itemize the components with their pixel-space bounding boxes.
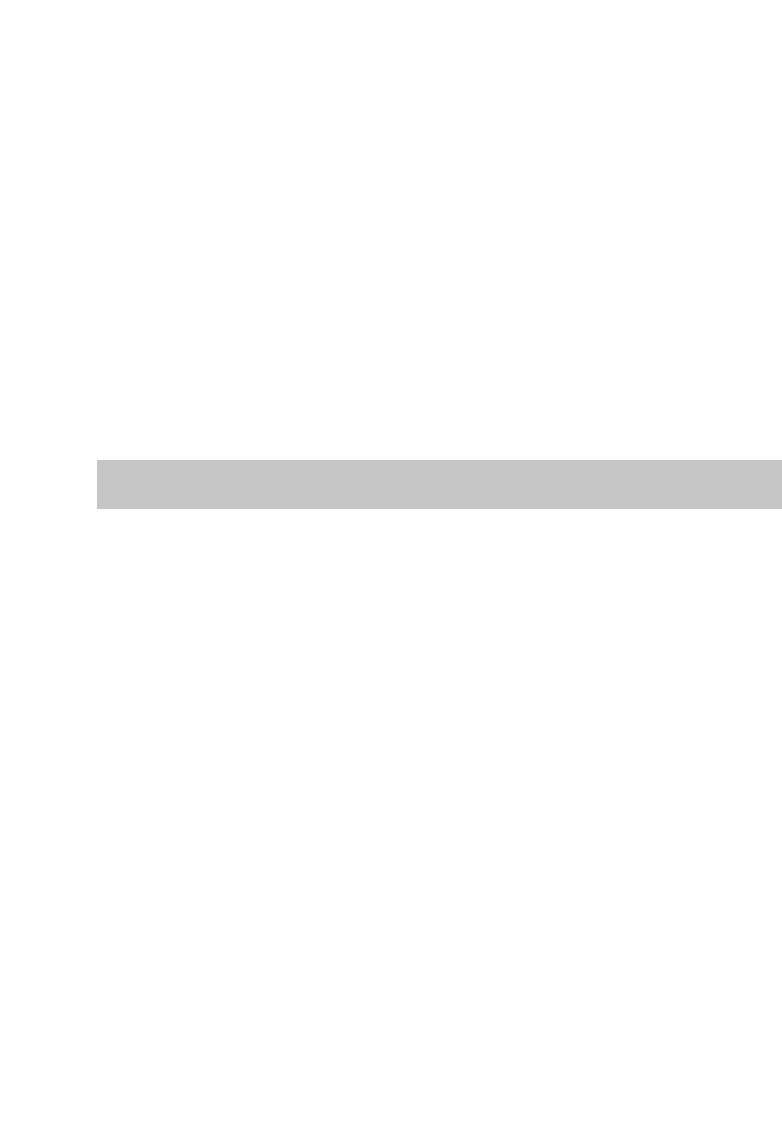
gray-redaction-bar (97, 460, 782, 509)
document-page (0, 0, 782, 1135)
